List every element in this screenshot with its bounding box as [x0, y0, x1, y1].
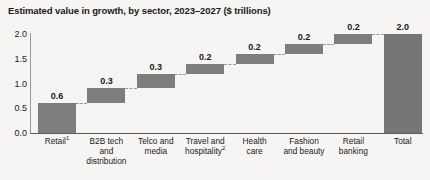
waterfall-connector: [274, 54, 285, 55]
category-label: Healthcare: [228, 136, 281, 156]
x-axis-line: [30, 133, 423, 134]
bar-segment: [137, 74, 175, 89]
y-axis-line: [30, 33, 31, 134]
category-label: Retailbanking: [327, 136, 380, 156]
bar-segment: [236, 54, 274, 64]
waterfall-chart: Estimated value in growth, by sector, 20…: [0, 0, 430, 180]
category-label: Retail1: [30, 136, 83, 146]
bar-value-label: 0.2: [248, 42, 261, 52]
bar-value-label: 2.0: [397, 22, 410, 32]
bar-value-label: 0.3: [150, 62, 163, 72]
bar-value-label: 0.2: [347, 22, 360, 32]
y-axis-tick-label: 0.5: [14, 103, 27, 113]
y-axis-tick-label: 0.0: [14, 128, 27, 138]
bar-value-label: 0.3: [100, 76, 113, 86]
category-label: Fashionand beauty: [277, 136, 330, 156]
bar-segment: [186, 64, 224, 74]
waterfall-connector: [323, 44, 334, 45]
bar-value-label: 0.2: [298, 32, 311, 42]
waterfall-connector: [224, 64, 235, 65]
bar-segment: [38, 103, 76, 133]
y-axis-tick-label: 2.0: [14, 29, 27, 39]
chart-title: Estimated value in growth, by sector, 20…: [8, 5, 271, 16]
category-label: Telco andmedia: [129, 136, 182, 156]
waterfall-connector: [372, 34, 383, 35]
category-label: Total: [376, 136, 429, 146]
y-axis-tick-label: 1.0: [14, 79, 27, 89]
waterfall-connector: [125, 88, 136, 89]
bar-value-label: 0.2: [199, 52, 212, 62]
bar-segment: [334, 34, 372, 44]
bar-segment: [285, 44, 323, 54]
bar-total: [384, 34, 422, 133]
bar-segment: [87, 88, 125, 103]
bar-value-label: 0.6: [51, 91, 64, 101]
waterfall-connector: [76, 103, 87, 104]
waterfall-connector: [175, 74, 186, 75]
y-axis-tick-label: 1.5: [14, 54, 27, 64]
category-label: Travel andhospitality2: [178, 136, 231, 156]
category-label: B2B techanddistribution: [80, 136, 133, 167]
